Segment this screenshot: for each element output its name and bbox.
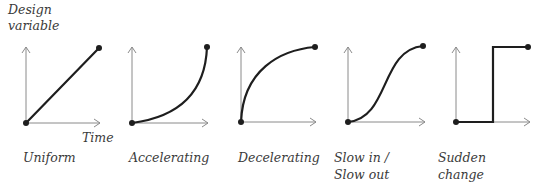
panel-label: Decelerating xyxy=(237,150,320,165)
uniform-curve xyxy=(26,48,99,123)
panel-decelerating: Decelerating xyxy=(237,44,320,165)
accelerating-curve xyxy=(132,47,207,123)
end-point xyxy=(312,44,318,50)
easing-curves-diagram: Design variable Time Uniform Acceleratin… xyxy=(0,0,543,187)
slow-in-slow-out-curve xyxy=(348,46,423,122)
end-point xyxy=(96,45,102,51)
start-point xyxy=(23,120,29,126)
end-point xyxy=(420,43,426,49)
start-point xyxy=(238,119,244,125)
panel-slow-in-slow-out: Slow in / Slow out xyxy=(334,43,426,182)
decelerating-curve xyxy=(241,47,315,122)
start-point xyxy=(345,119,351,125)
start-point xyxy=(129,120,135,126)
end-point xyxy=(204,44,210,50)
sudden-change-curve xyxy=(456,47,528,122)
y-axis-label-line2: variable xyxy=(8,18,59,33)
panel-accelerating: Accelerating xyxy=(128,44,210,165)
panel-label-line1: Sudden xyxy=(438,150,486,165)
panel-sudden-change: Sudden change xyxy=(438,44,531,182)
panel-label-line1: Slow in / xyxy=(334,150,391,165)
axes xyxy=(452,47,530,126)
panel-label-line2: Slow out xyxy=(334,167,390,182)
x-axis-label: Time xyxy=(82,130,114,145)
panel-label: Uniform xyxy=(23,150,76,165)
panel-label-line2: change xyxy=(438,167,484,182)
start-point xyxy=(453,119,459,125)
y-axis-label-line1: Design xyxy=(7,2,52,17)
end-point xyxy=(525,44,531,50)
panel-uniform: Uniform xyxy=(22,45,102,165)
panel-label: Accelerating xyxy=(128,150,209,165)
